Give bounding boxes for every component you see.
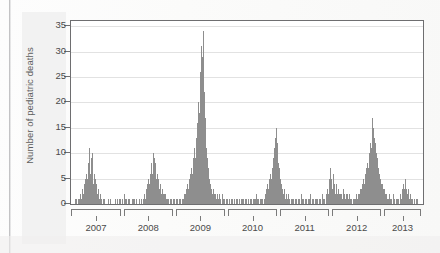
bar [117, 199, 118, 204]
x-axis-season-bracket [280, 209, 330, 216]
bar [417, 199, 418, 204]
x-axis-mid-tick [403, 216, 404, 221]
y-axis-tick-label: 5 [36, 172, 66, 183]
bar [414, 199, 415, 204]
x-axis-tick-label: 2009 [190, 222, 211, 233]
x-axis-season-bracket [176, 209, 226, 216]
x-axis-season-bracket [332, 209, 382, 216]
bar [248, 199, 249, 204]
x-axis-mid-tick [96, 216, 97, 221]
x-axis: 2007200820092010201120122013 [70, 209, 424, 221]
plot-area [70, 20, 424, 205]
y-axis-tick-label: 10 [36, 146, 66, 157]
bar [129, 199, 130, 204]
bar [115, 199, 116, 204]
x-axis-mid-tick [200, 216, 201, 221]
bar [139, 199, 140, 204]
x-axis-tick-label: 2012 [346, 222, 367, 233]
x-axis-season-bracket [71, 209, 121, 216]
bar [104, 199, 105, 204]
x-axis-tick-label: 2007 [85, 222, 106, 233]
bar [134, 199, 135, 204]
x-axis-season-bracket [384, 209, 421, 216]
bar [234, 199, 235, 204]
y-axis-tick-label: 15 [36, 121, 66, 132]
x-axis-mid-tick [305, 216, 306, 221]
x-axis-season-bracket [124, 209, 174, 216]
pediatric-deaths-chart: Number of pediatric deaths 2007200820092… [0, 0, 440, 253]
bar [229, 199, 230, 204]
bar [110, 199, 111, 204]
y-axis-tick-label: 20 [36, 95, 66, 106]
x-axis-mid-tick [148, 216, 149, 221]
bar-series [71, 21, 423, 204]
bar [120, 199, 121, 204]
y-axis-tick-label: 35 [36, 19, 66, 30]
y-axis-tick-label: 0 [36, 197, 66, 208]
y-axis-tick-label: 30 [36, 45, 66, 56]
bar [108, 199, 109, 204]
bar [239, 199, 240, 204]
x-axis-season-bracket [228, 209, 278, 216]
bar [171, 199, 172, 204]
x-axis-tick-label: 2013 [392, 222, 413, 233]
y-axis-tick-label: 25 [36, 70, 66, 81]
y-axis-title: Number of pediatric deaths [24, 11, 35, 201]
x-axis-tick-label: 2010 [242, 222, 263, 233]
bar [136, 199, 137, 204]
x-axis-tick-label: 2011 [294, 222, 314, 233]
bar [76, 199, 77, 204]
x-axis-tick-label: 2008 [138, 222, 159, 233]
bar [126, 199, 127, 204]
x-axis-mid-tick [253, 216, 254, 221]
x-axis-mid-tick [357, 216, 358, 221]
